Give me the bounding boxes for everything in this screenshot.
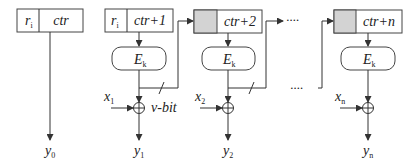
shaded-nonce-2 bbox=[194, 10, 217, 33]
feedback-arrow-n bbox=[318, 21, 333, 88]
input-label-2: x2 bbox=[194, 89, 205, 106]
ellipsis-connector: ···· bbox=[290, 21, 333, 95]
output-label-0: y0 bbox=[43, 143, 55, 160]
counter-label-1: ctr+1 bbox=[134, 13, 166, 28]
output-label-n: yn bbox=[361, 143, 373, 160]
input-label-n: xn bbox=[334, 89, 345, 106]
stage-0: ri ctr y0 bbox=[17, 9, 83, 160]
ellipsis-bottom: ···· bbox=[290, 80, 303, 95]
shaded-nonce-n bbox=[334, 10, 356, 33]
feedback-label: v-bit bbox=[151, 100, 178, 115]
ellipsis-top: ···· bbox=[286, 12, 299, 27]
output-label-1: y1 bbox=[132, 143, 144, 160]
output-label-2: y2 bbox=[221, 143, 233, 160]
ctr-mode-diagram: ri ctr y0 ri ctr+1 Ek x1 y1 v-bit ctr+2 … bbox=[0, 0, 415, 164]
counter-label-0: ctr bbox=[53, 13, 69, 28]
counter-label-2: ctr+2 bbox=[224, 14, 256, 29]
stage-1: ri ctr+1 Ek x1 y1 v-bit bbox=[103, 9, 193, 160]
counter-label-n: ctr+n bbox=[363, 14, 395, 29]
stage-2: ctr+2 Ek x2 y2 ···· bbox=[194, 10, 299, 160]
stage-n: ctr+n Ek xn yn bbox=[334, 10, 402, 160]
input-label-1: x1 bbox=[103, 89, 114, 106]
